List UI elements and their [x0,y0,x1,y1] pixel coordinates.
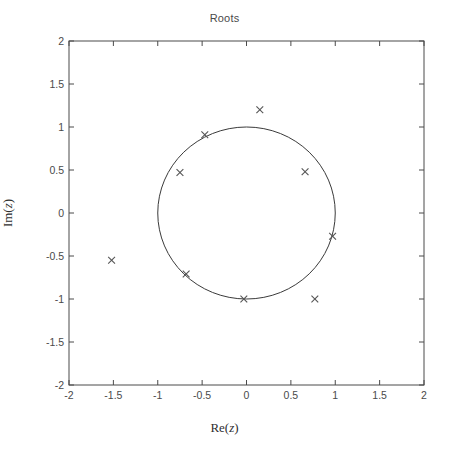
data-point [311,296,318,303]
y-tick-label: 0 [58,207,64,219]
axes-box [69,41,424,385]
y-tick-label: 1.5 [49,78,64,90]
x-tick-label: 1 [332,389,338,401]
figure-canvas: Roots Im(z) Re(z) -2-1.5-1-0.500.511.52 … [0,0,449,453]
x-tick-label: -0.5 [193,389,211,401]
x-tick-label: -1.5 [104,389,122,401]
y-tick-label: 0.5 [49,164,64,176]
unit-circle [158,127,336,299]
plot-area [0,0,449,453]
data-point [177,169,184,176]
x-tick-label: 0 [244,389,250,401]
x-tick-label: 0.5 [284,389,299,401]
y-tick-label: -1.5 [46,336,64,348]
x-tick-label: 2 [421,389,427,401]
x-axis-ticks [69,41,424,385]
x-tick-label: 1.5 [372,389,387,401]
y-tick-label: 1 [58,121,64,133]
data-point [108,257,115,264]
chart-annotations [158,127,336,299]
data-point [256,106,263,113]
data-point [302,168,309,175]
x-tick-label: -2 [64,389,73,401]
y-tick-label: 2 [58,35,64,47]
y-axis-ticks [69,41,424,385]
data-markers [108,106,336,302]
y-tick-label: -0.5 [46,250,64,262]
y-tick-label: -2 [55,379,64,391]
y-tick-label: -1 [55,293,64,305]
x-tick-label: -1 [153,389,162,401]
